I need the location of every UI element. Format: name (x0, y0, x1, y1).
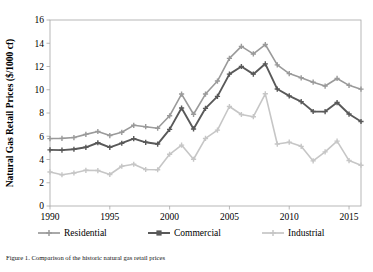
legend-label-industrial: Industrial (288, 228, 325, 238)
data-point-industrial (47, 169, 52, 174)
data-point-industrial (358, 163, 363, 168)
x-axis-tick-label: 2010 (280, 212, 299, 222)
y-axis-tick-label: 6 (39, 132, 44, 142)
data-point-commercial (131, 136, 136, 141)
plot-area-frame (50, 20, 361, 206)
y-axis-tick-label: 14 (35, 39, 45, 49)
y-axis-title: Natural Gas Retail Prices ($/1000 cf) (5, 39, 16, 188)
data-point-residential (83, 132, 88, 137)
y-axis-tick-label: 16 (35, 15, 45, 25)
data-point-commercial (107, 145, 112, 150)
y-axis-tick-label: 10 (35, 85, 45, 95)
y-axis-tick-label: 2 (39, 178, 44, 188)
data-point-residential (107, 133, 112, 138)
data-point-commercial (143, 140, 148, 145)
data-point-commercial (47, 147, 52, 152)
data-point-industrial (143, 167, 148, 172)
x-axis-tick-label: 1990 (41, 212, 60, 222)
x-axis-tick-label: 2015 (340, 212, 359, 222)
data-point-industrial (95, 168, 100, 173)
x-axis-tick-label: 2000 (160, 212, 179, 222)
y-axis-tick-label: 12 (35, 62, 45, 72)
y-axis-tick-label: 0 (39, 201, 44, 211)
legend-label-residential: Residential (64, 228, 107, 238)
data-point-residential (143, 124, 148, 129)
data-point-commercial (95, 140, 100, 145)
y-axis-tick-label: 4 (39, 155, 44, 165)
data-point-residential (95, 129, 100, 134)
data-point-residential (299, 75, 304, 80)
data-point-industrial (131, 162, 136, 167)
data-point-industrial (59, 172, 64, 177)
data-point-residential (47, 136, 52, 141)
data-point-residential (71, 135, 76, 140)
data-point-industrial (83, 168, 88, 173)
y-axis-tick-label: 8 (39, 108, 44, 118)
legend-marker-industrial (270, 230, 276, 236)
data-point-commercial (83, 145, 88, 150)
natural-gas-price-line-chart: 0246810121416199019952000200520102015Nat… (0, 0, 373, 250)
data-point-industrial (287, 140, 292, 145)
data-point-residential (358, 87, 363, 92)
data-point-industrial (71, 170, 76, 175)
figure-caption: Figure 1. Comparison of the historic nat… (6, 254, 371, 262)
x-axis-tick-label: 2005 (220, 212, 239, 222)
data-point-industrial (275, 141, 280, 146)
legend-marker-commercial (156, 230, 161, 235)
data-point-commercial (119, 141, 124, 146)
figure-container: 0246810121416199019952000200520102015Nat… (0, 0, 373, 272)
data-point-commercial (59, 147, 64, 152)
data-point-commercial (71, 147, 76, 152)
x-axis-tick-label: 1995 (100, 212, 119, 222)
legend-marker-residential (46, 230, 52, 236)
data-point-residential (311, 80, 316, 85)
data-point-residential (59, 136, 64, 141)
legend-label-commercial: Commercial (174, 228, 221, 238)
